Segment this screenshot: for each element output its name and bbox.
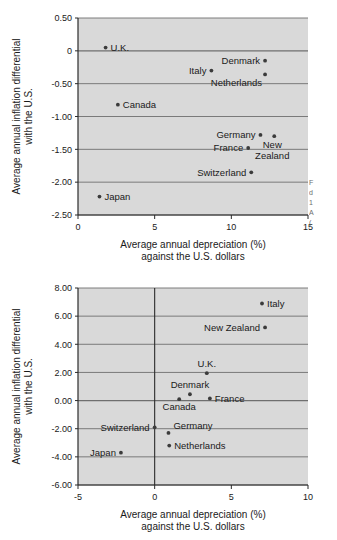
data-point-label: Italy <box>189 65 207 76</box>
x-tick-label: -5 <box>74 492 82 502</box>
y-tick-label: -1.50 <box>51 145 72 155</box>
y-tick-label: -4.00 <box>51 452 72 462</box>
data-point-label: New Zealand <box>204 322 260 333</box>
y-tick-label: 0.00 <box>54 396 72 406</box>
y-tick-label: -2.00 <box>51 177 72 187</box>
data-point <box>167 431 171 435</box>
data-point-label: Netherlands <box>174 440 225 451</box>
x-tick-label: 5 <box>229 492 234 502</box>
x-tick-label: 10 <box>303 492 313 502</box>
data-point <box>260 302 264 306</box>
y-axis-label-line-2: with the U.S. <box>23 88 34 146</box>
x-axis-ticks: 051015 <box>75 215 313 232</box>
margin-note-line-3: 1 <box>309 198 335 208</box>
y-tick-label: -2.50 <box>51 210 72 220</box>
y-tick-label: 0.50 <box>54 13 72 23</box>
data-point-label: Italy <box>267 298 285 309</box>
margin-note-line-4: A <box>309 208 335 218</box>
data-point-label: Switzerland <box>197 167 246 178</box>
y-tick-label: -2.00 <box>51 424 72 434</box>
x-axis-label-line-1: Average annual depreciation (%) <box>120 239 265 250</box>
data-point-label: Canada <box>163 401 197 412</box>
data-point <box>119 451 123 455</box>
data-point <box>104 46 108 50</box>
x-tick-label: 0 <box>75 222 80 232</box>
data-point <box>116 103 120 107</box>
y-axis-ticks: 0.500-0.50-1.00-1.50-2.00-2.50 <box>51 13 78 220</box>
data-point <box>153 425 157 429</box>
data-point <box>246 146 250 150</box>
data-point-label: U.K. <box>111 42 129 53</box>
x-axis-label-line-1: Average annual depreciation (%) <box>120 509 265 520</box>
chart-plot: 8.006.004.002.000.00-2.00-4.00-6.00-5051… <box>0 270 337 540</box>
data-point-label: Zealand <box>255 150 289 161</box>
data-point-label: Canada <box>123 99 157 110</box>
chart-plot: 0.500-0.50-1.00-1.50-2.00-2.50051015U.K.… <box>0 0 337 270</box>
y-tick-label: 0 <box>67 46 72 56</box>
data-point-label: Japan <box>90 447 116 458</box>
y-tick-label: 4.00 <box>54 340 72 350</box>
data-point <box>272 134 276 138</box>
y-axis-label-line-1: Average annual inflation differential <box>11 39 22 195</box>
x-tick-label: 0 <box>152 492 157 502</box>
data-point-label: Germany <box>216 129 255 140</box>
figure-inflation-vs-depreciation-1: 0.500-0.50-1.00-1.50-2.00-2.50051015U.K.… <box>0 0 337 270</box>
data-point-label: Switzerland <box>101 422 150 433</box>
data-point <box>249 170 253 174</box>
x-axis-label-line-2: against the U.S. dollars <box>141 251 244 262</box>
margin-note-line-2: d <box>309 188 335 198</box>
y-tick-label: -0.50 <box>51 79 72 89</box>
data-point <box>263 73 267 77</box>
data-point-label: Japan <box>104 191 130 202</box>
data-point <box>208 397 212 401</box>
data-point <box>259 133 263 137</box>
data-point <box>98 195 102 199</box>
figure-inflation-vs-depreciation-2: 8.006.004.002.000.00-2.00-4.00-6.00-5051… <box>0 270 337 540</box>
data-point <box>167 444 171 448</box>
data-point <box>205 371 209 375</box>
data-point-label: Germany <box>173 420 212 431</box>
y-tick-label: -6.00 <box>51 480 72 490</box>
data-point-label: France <box>214 142 244 153</box>
margin-note: F d 1 A ( <box>309 178 335 228</box>
y-axis-label-line-1: Average annual inflation differential <box>11 309 22 465</box>
x-axis-ticks: -50510 <box>74 485 313 502</box>
data-point-label: Denmark <box>222 55 261 66</box>
x-tick-label: 10 <box>226 222 236 232</box>
y-axis-ticks: 8.006.004.002.000.00-2.00-4.00-6.00 <box>51 283 78 490</box>
data-point-label: New <box>263 139 282 150</box>
data-point-label: Netherlands <box>211 77 262 88</box>
y-tick-label: 2.00 <box>54 368 72 378</box>
data-point <box>263 59 267 63</box>
data-point <box>263 326 267 330</box>
data-point <box>188 392 192 396</box>
data-point-label: U.K. <box>198 358 216 369</box>
margin-note-line-1: F <box>309 178 335 188</box>
data-point-label: Denmark <box>171 379 210 390</box>
x-tick-label: 5 <box>152 222 157 232</box>
y-axis-label-line-2: with the U.S. <box>23 358 34 416</box>
y-tick-label: 6.00 <box>54 311 72 321</box>
y-tick-label: 8.00 <box>54 283 72 293</box>
data-point-label: France <box>215 393 245 404</box>
x-axis-label-line-2: against the U.S. dollars <box>141 521 244 532</box>
y-tick-label: -1.00 <box>51 112 72 122</box>
margin-note-line-5: ( <box>309 218 335 228</box>
data-point <box>210 69 214 73</box>
